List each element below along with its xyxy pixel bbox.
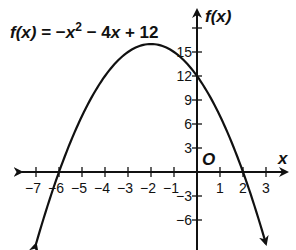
parabola-chart: −7−6−5−4−3−2−1123−6−33691215 f(x) = −x2 … xyxy=(0,0,296,250)
curve-layer xyxy=(36,44,266,244)
axes xyxy=(22,10,287,250)
y-tick-label: 9 xyxy=(184,92,192,108)
y-axis-label: f(x) xyxy=(205,7,232,26)
x-tick-label: 3 xyxy=(262,180,270,196)
x-tick-label: 1 xyxy=(216,180,224,196)
y-tick-label: 3 xyxy=(184,140,192,156)
y-tick-label: 15 xyxy=(176,44,192,60)
x-tick-label: −5 xyxy=(71,180,87,196)
y-tick-label: 6 xyxy=(184,116,192,132)
x-tick-label: −7 xyxy=(25,180,41,196)
ticks: −7−6−5−4−3−2−1123−6−33691215 xyxy=(25,28,270,228)
y-tick-label: −3 xyxy=(176,188,192,204)
y-tick-label: −6 xyxy=(176,212,192,228)
x-tick-label: −2 xyxy=(140,180,156,196)
parabola-curve xyxy=(36,44,266,244)
x-tick-label: −4 xyxy=(94,180,110,196)
x-axis-label: x xyxy=(277,149,289,168)
origin-label: O xyxy=(202,150,215,169)
x-tick-label: −3 xyxy=(117,180,133,196)
equation-label: f(x) = −x2 − 4x + 12 xyxy=(10,20,159,42)
y-tick-label: 12 xyxy=(176,68,192,84)
